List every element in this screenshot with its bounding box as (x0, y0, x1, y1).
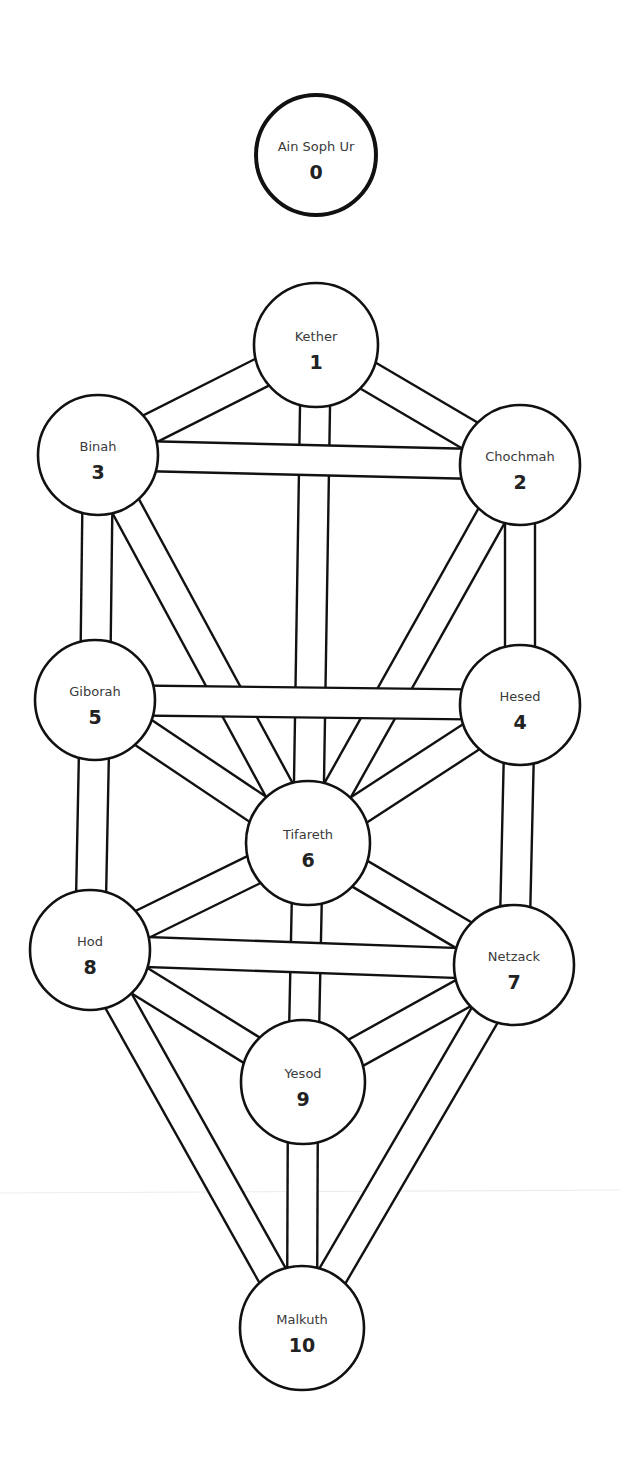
sephira-circle (241, 1020, 365, 1144)
sephira-name: Giborah (69, 684, 120, 699)
sephira-ain-soph-ur: Ain Soph Ur0 (256, 95, 376, 215)
sephira-circle (460, 645, 580, 765)
sephira-name: Hesed (500, 689, 541, 704)
sephira-circle (240, 1266, 364, 1390)
tree-of-life-diagram: Ain Soph Ur0Kether1Chochmah2Binah3Hesed4… (0, 0, 620, 1463)
sephira-name: Malkuth (276, 1312, 328, 1327)
sephira-circle (38, 395, 158, 515)
sephira-name: Hod (77, 934, 103, 949)
sephira-circle (256, 95, 376, 215)
sephira-circle (35, 640, 155, 760)
sephira-circle (454, 905, 574, 1025)
sephira-number: 0 (309, 161, 322, 183)
sephira-name: Tifareth (282, 827, 333, 842)
path-hesed-giborah (95, 685, 520, 720)
sephira-giborah: Giborah5 (35, 640, 155, 760)
sephira-hod: Hod8 (30, 890, 150, 1010)
sephira-circle (30, 890, 150, 1010)
path-kether-tifareth (293, 345, 331, 843)
sephira-circle (460, 405, 580, 525)
sephira-number: 10 (289, 1334, 315, 1356)
sephira-number: 1 (309, 351, 322, 373)
sephira-name: Yesod (283, 1066, 321, 1081)
sephira-number: 6 (301, 849, 314, 871)
sephira-number: 9 (296, 1088, 309, 1110)
sephira-kether: Kether1 (254, 283, 378, 407)
sephira-number: 5 (88, 706, 101, 728)
sephira-netzack: Netzack7 (454, 905, 574, 1025)
sephira-name: Ain Soph Ur (278, 139, 355, 154)
sephira-number: 8 (83, 956, 96, 978)
sephira-chochmah: Chochmah2 (460, 405, 580, 525)
sephira-circle (254, 283, 378, 407)
sephira-number: 4 (513, 711, 526, 733)
sephira-tifareth: Tifareth6 (246, 781, 370, 905)
sephira-circle (246, 781, 370, 905)
sephira-malkuth: Malkuth10 (240, 1266, 364, 1390)
sephira-number: 7 (507, 971, 520, 993)
sephira-number: 3 (91, 461, 104, 483)
sephira-number: 2 (513, 471, 526, 493)
sephira-name: Chochmah (485, 449, 555, 464)
sephira-name: Binah (80, 439, 117, 454)
sephira-yesod: Yesod9 (241, 1020, 365, 1144)
sephira-name: Netzack (488, 949, 541, 964)
sephira-name: Kether (295, 329, 338, 344)
sephira-hesed: Hesed4 (460, 645, 580, 765)
sephira-binah: Binah3 (38, 395, 158, 515)
